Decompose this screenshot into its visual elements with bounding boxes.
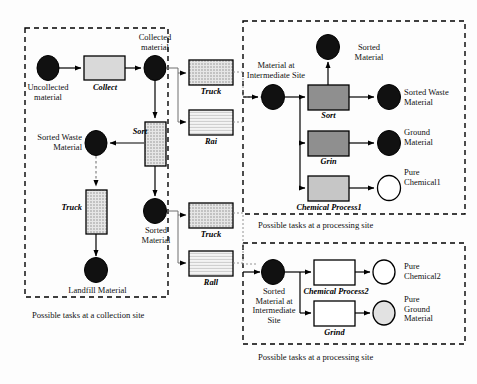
place-landfill-material xyxy=(85,258,108,283)
task-truck-upper xyxy=(189,60,233,85)
caption-collection-site: Possible tasks at a collection site xyxy=(32,310,212,320)
label-sorted-waste-material-processing: Sorted Waste Material xyxy=(404,88,476,107)
place-sorted-waste-material-processing xyxy=(378,85,401,110)
label-task-sort-collection: Sort xyxy=(117,127,147,137)
label-task-truck-upper: Truck xyxy=(186,87,236,97)
place-material-at-intermediate-site xyxy=(262,85,285,110)
label-collected-material: Collected material xyxy=(120,33,190,52)
place-pure-ground-material xyxy=(373,301,395,325)
task-grind-bottom xyxy=(314,301,355,326)
place-collected-material xyxy=(144,56,166,81)
task-rail-upper xyxy=(189,110,233,135)
label-task-truck-collection: Truck xyxy=(42,203,82,213)
label-task-sort-processing: Sort xyxy=(306,111,351,121)
label-task-grind-bottom: Grind xyxy=(312,328,357,338)
place-pure-chemical2 xyxy=(373,260,395,284)
caption-processing-site-top: Possible tasks at a processing site xyxy=(258,220,458,230)
label-sorted-waste-material-collection: Sorted Waste Material xyxy=(22,133,82,152)
place-ground-material xyxy=(378,131,401,156)
place-pure-chemical1 xyxy=(378,176,401,201)
label-sorted-material-processing: Sorted Material xyxy=(344,43,394,62)
task-sort-collection xyxy=(145,122,166,166)
task-truck-collection xyxy=(86,190,107,234)
task-collect xyxy=(84,56,125,80)
place-sorted-material-collection xyxy=(144,199,167,224)
task-rail-lower xyxy=(189,251,233,276)
label-task-chemical-process1: Chemical Process1 xyxy=(288,203,370,213)
label-pure-chemical2: Pure Chemical2 xyxy=(404,262,464,281)
label-material-at-intermediate-site: Material at Intermediate Site xyxy=(240,61,312,80)
label-landfill-material: Landfill Material xyxy=(50,286,145,296)
task-chemical-process1 xyxy=(308,176,349,201)
task-grind-processing xyxy=(308,131,349,156)
label-task-truck-lower: Truck xyxy=(186,230,236,240)
label-pure-ground-material: Pure Ground Material xyxy=(404,295,464,324)
place-uncollected-material xyxy=(37,56,59,81)
place-sorted-waste-material-collection xyxy=(85,131,107,156)
label-task-chemical-process2: Chemical Process2 xyxy=(294,287,378,297)
task-chemical-process2 xyxy=(314,260,355,285)
label-task-rail-lower: Rall xyxy=(186,278,236,288)
label-ground-material: Ground Material xyxy=(404,128,464,147)
label-task-rail-upper: Rai xyxy=(186,137,236,147)
label-sorted-material-collection: Sorted Material xyxy=(128,226,184,245)
place-sorted-material-at-intermediate-site xyxy=(262,260,285,285)
label-uncollected-material: Uncollected material xyxy=(8,83,88,102)
caption-processing-site-bottom: Possible tasks at a processing site xyxy=(258,352,458,362)
place-sorted-material-processing xyxy=(317,35,340,60)
diagram-vector-layer xyxy=(0,0,477,384)
label-task-grind-processing: Grin xyxy=(306,157,351,167)
label-pure-chemical1: Pure Chemical1 xyxy=(404,168,464,187)
label-task-collect: Collect xyxy=(80,83,130,93)
task-sort-processing xyxy=(308,85,349,110)
diagram-canvas: Uncollected material Collect Collected m… xyxy=(0,0,477,384)
task-truck-lower xyxy=(189,203,233,228)
